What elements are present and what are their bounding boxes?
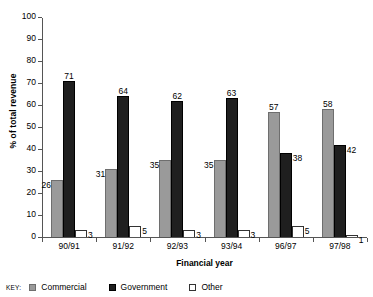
legend-label: Other: [201, 282, 222, 292]
bar-other[interactable]: 5: [129, 226, 141, 237]
bar-commercial[interactable]: 57: [268, 112, 280, 237]
bar-government[interactable]: 63: [226, 98, 238, 237]
legend-swatch-commercial: [29, 284, 36, 291]
bar-value-label: 35: [150, 160, 159, 170]
bar-value-label: 31: [96, 169, 105, 179]
chart-title: [56, 0, 176, 2]
bar-other[interactable]: 3: [75, 230, 87, 237]
bar-value-label: 71: [64, 71, 73, 81]
y-tick-label: 20: [27, 187, 36, 198]
x-tick-mark: [150, 238, 151, 242]
bar-other[interactable]: 5: [292, 226, 304, 237]
bar-government[interactable]: 38: [280, 153, 292, 237]
plot-area: 0102030405060708090100 2671390/913164591…: [42, 18, 367, 238]
y-tick-label: 0: [31, 231, 36, 242]
y-tick-label: 10: [27, 209, 36, 220]
y-tick-label: 30: [27, 165, 36, 176]
legend-swatch-other: [189, 284, 196, 291]
bar-value-label: 3: [251, 230, 256, 240]
bar-value-label: 35: [204, 160, 213, 170]
legend-item-other[interactable]: Other: [189, 282, 222, 292]
bar-value-label: 58: [323, 99, 332, 109]
x-tick-label: 91/92: [113, 241, 134, 251]
bar-other[interactable]: 3: [183, 230, 195, 237]
y-tick-label: 50: [27, 121, 36, 132]
bar-value-label: 26: [42, 180, 51, 190]
x-tick-label: 96/97: [275, 241, 296, 251]
bar-value-label: 3: [196, 230, 201, 240]
x-tick-mark: [313, 238, 314, 242]
x-tick-label: 92/93: [167, 241, 188, 251]
bar-value-label: 1: [359, 235, 364, 245]
legend-items: CommercialGovernmentOther: [29, 282, 244, 292]
bar-government[interactable]: 64: [117, 96, 129, 237]
x-tick-mark: [42, 238, 43, 242]
bar-value-label: 62: [173, 91, 182, 101]
x-tick-mark: [205, 238, 206, 242]
legend-swatch-government: [109, 284, 116, 291]
bar-value-label: 63: [227, 88, 236, 98]
bar-group: 5738596/97: [259, 17, 313, 237]
y-tick-label: 40: [27, 143, 36, 154]
x-tick-mark: [96, 238, 97, 242]
bar-commercial[interactable]: 35: [214, 160, 226, 237]
x-axis-title: Financial year: [42, 258, 367, 268]
legend-item-commercial[interactable]: Commercial: [29, 282, 86, 292]
x-tick-mark: [259, 238, 260, 242]
bar-value-label: 38: [293, 153, 302, 163]
y-tick-label: 60: [27, 99, 36, 110]
y-tick-label: 100: [22, 11, 36, 22]
bar-group: 3562392/93: [150, 17, 204, 237]
legend-label: Commercial: [41, 282, 86, 292]
y-tick-label: 70: [27, 77, 36, 88]
bar-commercial[interactable]: 35: [159, 160, 171, 237]
y-tick-label: 90: [27, 33, 36, 44]
bar-value-label: 3: [88, 230, 93, 240]
bar-value-label: 57: [269, 102, 278, 112]
bar-other[interactable]: 1: [346, 235, 358, 237]
y-axis-title: % of total revenue: [8, 46, 18, 176]
bar-value-label: 5: [142, 226, 147, 236]
bar-commercial[interactable]: 26: [51, 180, 63, 237]
legend: KEY: CommercialGovernmentOther: [6, 282, 245, 292]
bar-value-label: 42: [347, 145, 356, 155]
bar-government[interactable]: 71: [63, 81, 75, 237]
x-tick-label: 90/91: [58, 241, 79, 251]
bar-government[interactable]: 42: [334, 145, 346, 237]
bar-group: 2671390/91: [42, 17, 96, 237]
bar-group: 3164591/92: [96, 17, 150, 237]
legend-prefix: KEY:: [6, 284, 21, 291]
bar-value-label: 5: [305, 226, 310, 236]
bar-value-label: 64: [118, 86, 127, 96]
bar-group: 3563393/94: [205, 17, 259, 237]
x-tick-label: 97/98: [329, 241, 350, 251]
legend-item-government[interactable]: Government: [109, 282, 168, 292]
bar-group: 5842197/98: [313, 17, 367, 237]
bar-government[interactable]: 62: [171, 101, 183, 237]
y-tick-label: 80: [27, 55, 36, 66]
bar-commercial[interactable]: 31: [105, 169, 117, 237]
bar-other[interactable]: 3: [238, 230, 250, 237]
bar-commercial[interactable]: 58: [322, 109, 334, 237]
legend-label: Government: [121, 282, 168, 292]
x-tick-label: 93/94: [221, 241, 242, 251]
x-tick-mark: [367, 238, 368, 242]
